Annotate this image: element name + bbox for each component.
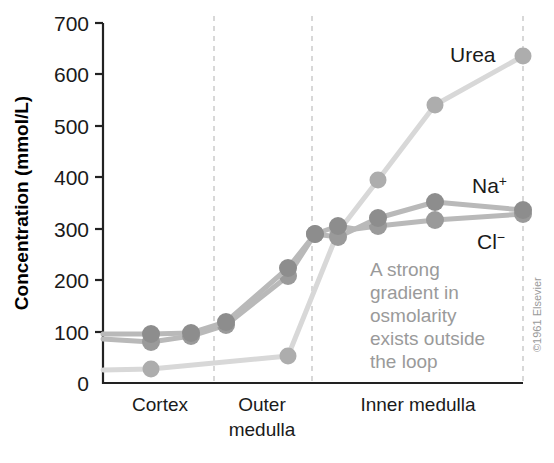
data-point-na [142, 325, 160, 343]
region-label-inner-medulla: Inner medulla [360, 394, 476, 415]
copyright-credit: ©1961 Elsevier [531, 277, 543, 352]
region-label-outer-medulla-line2: medulla [229, 419, 296, 440]
series-labels: Urea Na+ Cl− [450, 43, 507, 253]
data-point-urea [280, 348, 297, 365]
ytick-label-500: 500 [54, 115, 89, 138]
y-axis-tick-labels: 700 600 500 400 300 200 100 0 [54, 12, 89, 395]
chart-svg: 700 600 500 400 300 200 100 0 Concentrat… [0, 0, 554, 463]
annotation-line-1: A strong [370, 259, 440, 280]
series-label-cl-text: Cl [477, 230, 497, 253]
series-urea-line [103, 56, 523, 370]
ytick-label-0: 0 [77, 372, 89, 395]
data-point-na [329, 217, 347, 235]
data-point-urea [515, 48, 532, 65]
ytick-label-400: 400 [54, 166, 89, 189]
y-axis-ticks [95, 23, 103, 332]
ytick-label-700: 700 [54, 12, 89, 35]
data-point-na [279, 259, 297, 277]
annotation-line-4: exists outside [370, 328, 485, 349]
ytick-label-300: 300 [54, 218, 89, 241]
series-label-na: Na+ [472, 173, 507, 197]
region-label-cortex: Cortex [132, 394, 188, 415]
annotation-line-3: osmolarity [370, 305, 457, 326]
data-point-urea [143, 361, 160, 378]
ytick-label-100: 100 [54, 321, 89, 344]
annotation-line-2: gradient in [370, 282, 459, 303]
series-label-cl-sup: − [497, 229, 505, 245]
ytick-label-600: 600 [54, 63, 89, 86]
data-point-urea [427, 97, 444, 114]
data-point-na [369, 209, 387, 227]
annotation-block: A strong gradient in osmolarity exists o… [370, 259, 485, 372]
data-point-na [426, 193, 444, 211]
data-point-na [306, 225, 324, 243]
data-point-na [217, 313, 235, 331]
region-label-outer-medulla-line1: Outer [238, 394, 286, 415]
series-label-na-sup: + [499, 173, 507, 189]
data-point-na [182, 324, 200, 342]
series-na-line [103, 202, 523, 334]
y-axis-title: Concentration (mmol/L) [11, 96, 32, 310]
series-label-urea: Urea [450, 43, 496, 66]
x-region-labels: Cortex Outer medulla Inner medulla [132, 394, 476, 440]
series-label-cl: Cl− [477, 229, 505, 253]
data-point-na [514, 201, 532, 219]
data-point-urea [370, 172, 387, 189]
data-point-cl [426, 211, 444, 229]
series-label-na-text: Na [472, 174, 499, 197]
ytick-label-200: 200 [54, 269, 89, 292]
kidney-concentration-gradient-chart: 700 600 500 400 300 200 100 0 Concentrat… [0, 0, 554, 463]
annotation-line-5: the loop [370, 351, 438, 372]
